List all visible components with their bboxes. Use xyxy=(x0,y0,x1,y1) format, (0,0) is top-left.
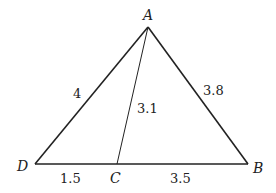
length-label-cb: 3.5 xyxy=(170,171,191,186)
segment-ac xyxy=(117,27,148,164)
segment-ab xyxy=(148,27,248,164)
point-label-a: A xyxy=(141,7,153,23)
point-label-b: B xyxy=(252,160,263,176)
point-label-c: C xyxy=(110,170,121,186)
point-label-d: D xyxy=(16,158,28,174)
triangle-diagram: A D B C 4 3.8 3.1 1.5 3.5 xyxy=(0,0,276,193)
length-label-ad: 4 xyxy=(73,86,81,101)
length-label-ab: 3.8 xyxy=(203,83,224,98)
segment-ad xyxy=(35,27,148,164)
length-label-ac: 3.1 xyxy=(137,101,158,116)
length-label-dc: 1.5 xyxy=(60,171,81,186)
